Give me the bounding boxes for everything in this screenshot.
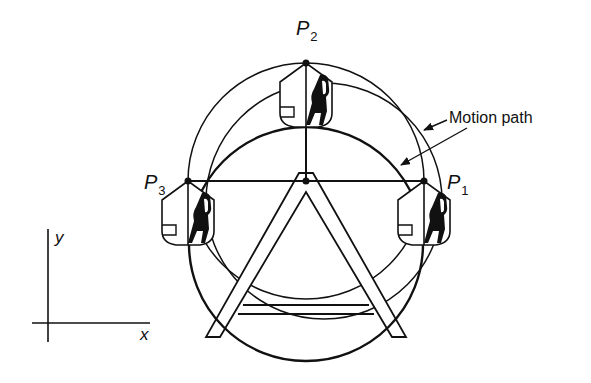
hub-point xyxy=(303,178,310,185)
motion-path-callout: Motion path xyxy=(449,110,533,126)
a-frame-support xyxy=(206,173,406,337)
label-p2: P2 xyxy=(296,18,318,38)
label-p2-subscript: 2 xyxy=(310,29,317,44)
callout-arrow-outer xyxy=(424,120,447,130)
pivot-point-p3 xyxy=(185,178,192,185)
label-p2-main: P xyxy=(296,17,309,39)
pivot-point-p2 xyxy=(303,60,310,67)
label-p3-subscript: 3 xyxy=(158,183,165,198)
label-p3-main: P xyxy=(144,171,157,193)
label-p1-main: P xyxy=(447,171,460,193)
label-p3: P3 xyxy=(144,172,166,192)
label-p1: P1 xyxy=(447,172,469,192)
gondola-p2 xyxy=(280,63,332,127)
pivot-point-p1 xyxy=(421,178,428,185)
x-axis-label: x xyxy=(140,326,149,343)
label-p1-subscript: 1 xyxy=(461,183,468,198)
y-axis-label: y xyxy=(55,229,64,246)
ferris-wheel-diagram xyxy=(0,0,591,383)
